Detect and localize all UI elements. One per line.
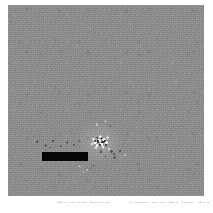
speck-field-below-bar bbox=[72, 162, 106, 176]
image-noise-texture-diagonal bbox=[8, 5, 204, 196]
image-noise-texture-horizontal bbox=[8, 5, 204, 196]
cluster-bright-pixels bbox=[86, 129, 116, 155]
speck-field-far-right bbox=[108, 146, 120, 162]
caption-fragment-left: the quick brown bbox=[57, 200, 111, 208]
grayscale-image-panel[interactable] bbox=[8, 5, 204, 196]
speck-field-left-of-bar bbox=[32, 138, 84, 150]
image-noise-texture-speckle bbox=[8, 5, 204, 196]
figure-root: the quick brown jumps over the lazy dog bbox=[0, 0, 213, 213]
bright-speckle-cluster bbox=[86, 129, 116, 155]
caption-strip: the quick brown jumps over the lazy dog bbox=[0, 200, 213, 213]
speck-field-right-of-bar bbox=[96, 146, 130, 160]
scale-bar bbox=[42, 152, 88, 161]
speck-field-above-bar bbox=[88, 118, 118, 130]
caption-fragment-right: jumps over the lazy dog bbox=[129, 200, 210, 208]
cluster-dark-pixels bbox=[86, 129, 116, 155]
